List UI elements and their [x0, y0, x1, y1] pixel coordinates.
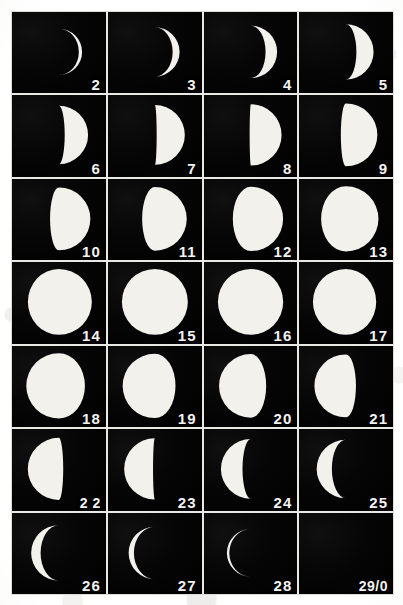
phase-cell[interactable]: 2 2: [12, 429, 106, 510]
phase-number-label: 11: [179, 244, 197, 259]
phase-number-label: 3: [187, 77, 196, 92]
phase-number-label: 29/0: [359, 579, 388, 593]
phase-cell[interactable]: 16: [204, 262, 298, 343]
phase-cell[interactable]: 13: [299, 179, 393, 260]
phase-number-label: 8: [283, 161, 292, 176]
phase-cell[interactable]: 28: [204, 513, 298, 594]
phase-cell[interactable]: 24: [204, 429, 298, 510]
phase-number-label: 18: [82, 411, 101, 426]
phase-number-label: 4: [283, 77, 292, 92]
phase-number-label: 17: [369, 328, 388, 343]
phase-number-label: 28: [274, 578, 293, 593]
phase-cell[interactable]: 20: [204, 346, 298, 427]
phase-grid: 234567891011121314151617181920212 223242…: [12, 12, 393, 594]
phase-cell[interactable]: 17: [299, 262, 393, 343]
phase-cell[interactable]: 19: [108, 346, 202, 427]
phase-cell[interactable]: 29/0: [299, 513, 393, 594]
phase-number-label: 25: [369, 495, 388, 510]
phase-cell[interactable]: 21: [299, 346, 393, 427]
phase-number-label: 14: [82, 328, 101, 343]
phase-cell[interactable]: 2: [12, 12, 106, 93]
phase-cell[interactable]: 25: [299, 429, 393, 510]
phase-number-label: 7: [187, 161, 196, 176]
phase-cell[interactable]: 27: [108, 513, 202, 594]
phase-number-label: 21: [369, 411, 388, 426]
phase-cell[interactable]: 12: [204, 179, 298, 260]
phase-cell[interactable]: 4: [204, 12, 298, 93]
phase-cell[interactable]: 14: [12, 262, 106, 343]
phase-number-label: 13: [369, 244, 388, 259]
phase-number-label: 20: [274, 411, 293, 426]
phase-number-label: 10: [82, 244, 101, 259]
phase-cell[interactable]: 10: [12, 179, 106, 260]
phase-number-label: 16: [274, 328, 293, 343]
phase-cell[interactable]: 9: [299, 95, 393, 176]
phase-number-label: 27: [178, 578, 197, 593]
phase-number-label: 9: [379, 161, 388, 176]
lunar-phase-plate: 234567891011121314151617181920212 223242…: [0, 0, 403, 605]
phase-number-label: 2: [91, 77, 100, 92]
phase-cell[interactable]: 5: [299, 12, 393, 93]
phase-number-label: 26: [82, 578, 101, 593]
phase-number-label: 24: [274, 495, 293, 510]
phase-number-label: 19: [178, 411, 197, 426]
phase-number-label: 6: [91, 161, 100, 176]
phase-cell[interactable]: 11: [108, 179, 202, 260]
phase-number-label: 12: [274, 244, 293, 259]
phase-cell[interactable]: 26: [12, 513, 106, 594]
phase-cell[interactable]: 7: [108, 95, 202, 176]
phase-cell[interactable]: 15: [108, 262, 202, 343]
phase-number-label: 2 2: [80, 496, 101, 510]
phase-cell[interactable]: 23: [108, 429, 202, 510]
phase-number-label: 23: [178, 495, 197, 510]
phase-cell[interactable]: 6: [12, 95, 106, 176]
phase-number-label: 15: [178, 328, 197, 343]
phase-number-label: 5: [379, 77, 388, 92]
phase-cell[interactable]: 3: [108, 12, 202, 93]
phase-cell[interactable]: 8: [204, 95, 298, 176]
phase-cell[interactable]: 18: [12, 346, 106, 427]
